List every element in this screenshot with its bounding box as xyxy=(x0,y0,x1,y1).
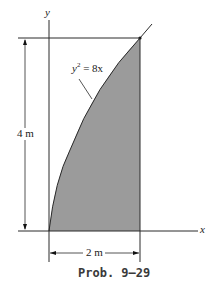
arrowhead-down-icon xyxy=(23,224,27,230)
figure-caption: Prob. 9–29 xyxy=(78,266,150,280)
height-dimension-label: 4 m xyxy=(17,127,34,139)
equation-rest: = 8x xyxy=(80,62,103,74)
arrowhead-left-icon xyxy=(50,251,56,255)
equation-leader-line xyxy=(79,79,92,99)
x-axis-label: x xyxy=(200,223,205,235)
width-dimension-label: 2 m xyxy=(86,246,103,258)
y-axis-label: y xyxy=(45,6,50,18)
arrowhead-up-icon xyxy=(23,39,27,45)
diagram-canvas xyxy=(0,0,216,291)
curve-equation-label: y2 = 8x xyxy=(72,61,103,74)
arrowhead-right-icon xyxy=(133,251,139,255)
